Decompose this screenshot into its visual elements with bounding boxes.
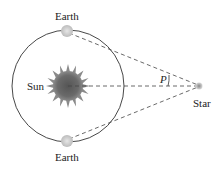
- earth-bottom-icon: [61, 135, 73, 147]
- sightline-top: [69, 33, 198, 85]
- parallax-angle-arc: [168, 75, 169, 86]
- star-label: Star: [193, 98, 211, 109]
- parallax-angle-label: P: [160, 74, 167, 85]
- earth-top-icon: [61, 25, 73, 37]
- sun-label: Sun: [27, 81, 44, 92]
- earth-bottom-label: Earth: [55, 152, 79, 163]
- star-icon: [196, 83, 203, 90]
- sightline-bottom: [69, 87, 198, 139]
- parallax-diagram: Earth Earth Sun Star P: [0, 0, 217, 169]
- earth-top-label: Earth: [55, 11, 79, 22]
